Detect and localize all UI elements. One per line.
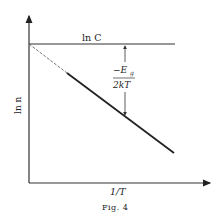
extrapolation-dashed-line (29, 44, 67, 73)
y-axis-label: ln n (13, 96, 23, 114)
figure-caption: Fig. 4 (102, 203, 128, 212)
ln-c-label: ln C (82, 32, 101, 43)
diagram-canvas: ln C −E g 2kT ln n 1/T Fig. 4 (0, 0, 221, 223)
gap-label-numerator: −E (113, 65, 128, 75)
gap-label-subscript: g (130, 69, 134, 77)
gap-label-denominator: 2kT (112, 80, 131, 90)
x-axis-label: 1/T (110, 186, 126, 197)
